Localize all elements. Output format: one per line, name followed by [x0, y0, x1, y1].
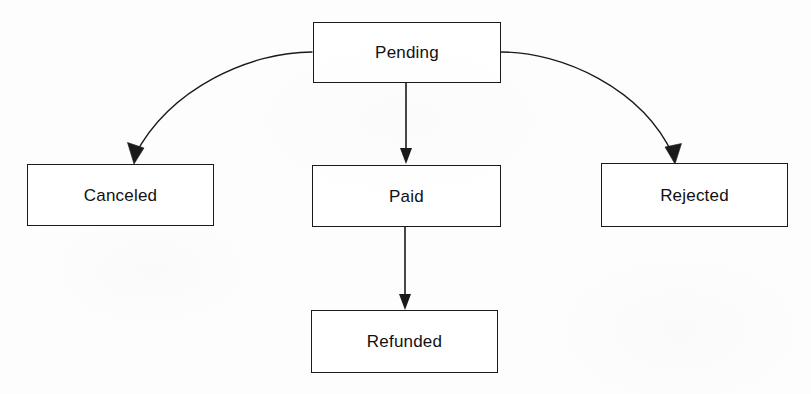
- node-pending-label: Pending: [375, 44, 439, 61]
- edge-pending-to-paid: [400, 83, 412, 164]
- node-rejected[interactable]: Rejected: [601, 163, 788, 227]
- node-refunded[interactable]: Refunded: [311, 310, 498, 373]
- edge-paid-to-refunded: [399, 227, 411, 310]
- node-rejected-label: Rejected: [660, 187, 729, 204]
- node-canceled[interactable]: Canceled: [27, 164, 214, 226]
- node-paid-label: Paid: [389, 188, 424, 205]
- node-pending[interactable]: Pending: [313, 22, 501, 83]
- node-refunded-label: Refunded: [367, 333, 442, 350]
- node-canceled-label: Canceled: [84, 187, 157, 204]
- diagram-canvas: Pending Canceled Paid Rejected Refunded: [0, 0, 811, 394]
- node-paid[interactable]: Paid: [312, 165, 501, 227]
- edge-pending-to-rejected: [501, 52, 682, 164]
- edge-pending-to-canceled: [128, 52, 313, 164]
